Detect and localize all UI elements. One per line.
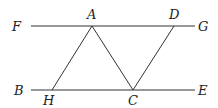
label-H: H xyxy=(42,93,55,108)
segment-AC xyxy=(92,26,133,90)
segment-CD xyxy=(133,26,174,90)
label-F: F xyxy=(11,19,22,34)
label-G: G xyxy=(198,19,208,34)
label-A: A xyxy=(86,7,96,22)
segment-HA xyxy=(52,26,92,90)
label-D: D xyxy=(168,7,180,22)
label-C: C xyxy=(128,93,138,108)
geometry-diagram: F G A D B E H C xyxy=(0,0,218,108)
label-B: B xyxy=(13,83,24,98)
label-E: E xyxy=(197,83,208,98)
